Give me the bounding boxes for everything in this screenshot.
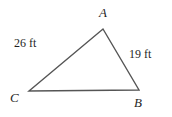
- side-label-ab: 19 ft: [129, 48, 151, 60]
- side-label-ca: 26 ft: [14, 37, 36, 49]
- triangle-outline: [29, 29, 139, 91]
- vertex-label-a: A: [99, 6, 107, 19]
- triangle-figure: A B C 26 ft 19 ft: [0, 0, 172, 117]
- vertex-label-c: C: [10, 91, 19, 104]
- vertex-label-b: B: [134, 96, 142, 109]
